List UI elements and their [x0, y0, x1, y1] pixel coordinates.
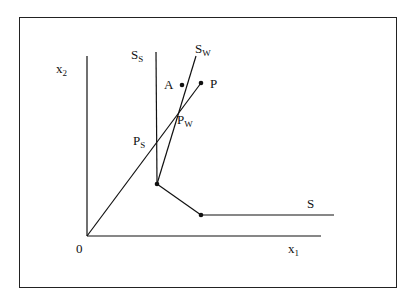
p-label: P [210, 77, 217, 90]
ss-label: SS [131, 48, 143, 64]
a-label: A [164, 78, 173, 91]
point-kink [155, 182, 160, 187]
ss-vertical-line [156, 52, 157, 184]
s-label: S [307, 197, 314, 210]
point-s-corner [199, 213, 204, 218]
pw-label: PW [177, 113, 193, 129]
sw-label: SW [195, 42, 211, 58]
x1-axis-label: x1 [288, 242, 299, 258]
origin-label: 0 [76, 242, 83, 255]
point-a [180, 83, 185, 88]
ray-origin-to-p [87, 83, 201, 236]
ps-label: PS [133, 134, 145, 150]
x2-axis-label: x2 [56, 62, 67, 78]
point-p [199, 81, 204, 86]
s-kink-segment [157, 184, 201, 215]
